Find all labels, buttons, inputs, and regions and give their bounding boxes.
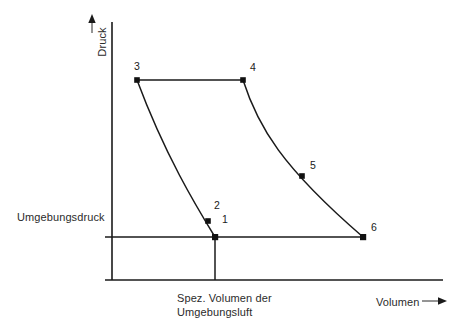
arrow-up-icon [88, 14, 95, 33]
y-axis-label: Druck [96, 12, 108, 72]
plot-canvas [0, 0, 465, 332]
compression-curve-1-2-3 [137, 80, 215, 237]
state-point-label-4: 4 [250, 61, 256, 73]
x-axis-label: Volumen [376, 296, 420, 308]
state-point-6 [360, 234, 366, 240]
state-point-1 [212, 234, 218, 240]
state-point-label-5: 5 [310, 159, 316, 171]
state-point-label-1: 1 [222, 213, 228, 225]
pv-diagram-figure: Druck Umgebungsdruck Spez. Volumen der U… [0, 0, 465, 332]
state-point-label-2: 2 [214, 199, 220, 211]
specific-volume-caption-line-1: Spez. Volumen der [177, 292, 272, 304]
expansion-curve-4-5-6 [243, 80, 363, 237]
specific-volume-caption: Spez. Volumen der Umgebungsluft [177, 291, 272, 319]
state-point-3 [134, 77, 140, 83]
state-point-label-6: 6 [371, 221, 377, 233]
state-point-4 [240, 77, 246, 83]
state-point-2 [205, 218, 211, 224]
state-point-5 [299, 173, 305, 179]
ambient-pressure-label: Umgebungsdruck [17, 211, 105, 223]
arrow-right-icon [422, 297, 447, 304]
state-point-label-3: 3 [134, 60, 140, 72]
specific-volume-caption-line-2: Umgebungsluft [177, 305, 272, 319]
